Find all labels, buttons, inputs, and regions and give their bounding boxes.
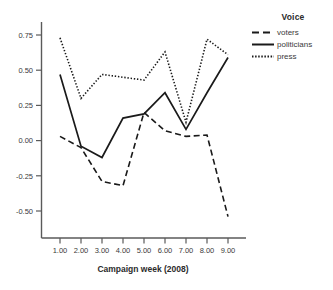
chart-figure: 0.750.500.250.00-0.25-0.50 1.002.003.004… [0, 0, 333, 290]
y-tick-label: -0.25 [16, 172, 33, 181]
legend-item-politicians[interactable]: politicians [252, 39, 332, 50]
x-tick-label: 4.00 [116, 246, 131, 255]
y-tick-label: 0.00 [18, 136, 33, 145]
x-tick-label: 6.00 [158, 246, 173, 255]
x-tick-label: 7.00 [179, 246, 194, 255]
legend-label-politicians: politicians [277, 40, 312, 49]
x-tick-label: 9.00 [221, 246, 236, 255]
x-axis-ticks: 1.002.003.004.005.006.007.008.009.00 [53, 238, 236, 255]
data-series-group [60, 38, 228, 217]
x-tick-label: 2.00 [74, 246, 89, 255]
y-tick-label: -0.50 [16, 207, 33, 216]
x-tick-label: 3.00 [95, 246, 110, 255]
series-line-politicians [60, 58, 228, 158]
legend-item-voters[interactable]: voters [252, 27, 332, 38]
legend-items: voterspoliticianspress [252, 27, 332, 62]
y-tick-label: 0.25 [18, 101, 33, 110]
y-tick-label: 0.50 [18, 66, 33, 75]
x-tick-label: 1.00 [53, 246, 68, 255]
legend-swatch-press [252, 52, 274, 61]
y-tick-label: 0.75 [18, 31, 33, 40]
series-line-voters [60, 112, 228, 216]
legend-swatch-politicians [252, 40, 274, 49]
legend-label-voters: voters [277, 28, 299, 37]
legend-label-press: press [277, 52, 297, 61]
x-tick-label: 8.00 [200, 246, 215, 255]
legend-title: Voice [254, 12, 332, 22]
legend-item-press[interactable]: press [252, 51, 332, 62]
y-axis-ticks: 0.750.500.250.00-0.25-0.50 [16, 31, 42, 216]
series-line-press [60, 38, 228, 122]
legend: Voice voterspoliticianspress [252, 12, 332, 63]
legend-swatch-voters [252, 28, 274, 37]
x-tick-label: 5.00 [137, 246, 152, 255]
x-axis-title: Campaign week (2008) [97, 264, 188, 274]
